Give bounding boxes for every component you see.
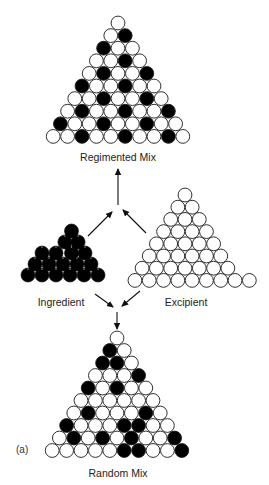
excipient-particle: [128, 274, 142, 288]
excipient-particle: [124, 381, 138, 395]
excipient-particle: [96, 381, 110, 395]
excipient-particle: [46, 130, 60, 144]
ingredient-particle: [21, 268, 35, 282]
excipient-particle: [171, 200, 185, 214]
ingredient-particle: [132, 419, 146, 433]
ingredient-particle: [118, 79, 132, 93]
excipient-particle: [139, 381, 153, 395]
arrow-ingredient-to-random: [95, 294, 113, 307]
ingredient-particle: [67, 431, 81, 445]
excipient-particle: [74, 394, 88, 408]
excipient-particle: [124, 406, 138, 420]
excipient-particle: [153, 431, 167, 445]
excipient-particle: [60, 444, 74, 458]
gap-dot: [69, 268, 70, 269]
excipient-particle: [142, 249, 156, 263]
excipient-particle: [157, 225, 171, 239]
excipient-particle: [68, 117, 82, 131]
excipient-particle: [185, 274, 199, 288]
gap-dot: [62, 257, 63, 258]
ingredient-particle: [110, 356, 124, 370]
gap-dot: [76, 257, 77, 258]
gap-dot: [90, 257, 91, 258]
gap-dot: [41, 268, 42, 269]
excipient-particle: [82, 92, 96, 106]
excipient-particle: [110, 431, 124, 445]
gap-dot: [64, 235, 65, 236]
excipient-particle: [169, 117, 183, 131]
excipient-particle: [178, 213, 192, 227]
ingredient-particle: [118, 130, 132, 144]
excipient-particle: [185, 249, 199, 263]
ingredient-particle: [96, 356, 110, 370]
excipient-particle: [74, 444, 88, 458]
excipient-particle: [192, 213, 206, 227]
excipient-particle: [90, 79, 104, 93]
arrows: [88, 169, 146, 329]
excipient-particle: [90, 130, 104, 144]
gap-dot: [41, 246, 42, 247]
excipient-particle: [242, 274, 256, 288]
arrow-excipient-to-random: [122, 291, 140, 306]
gap-dot: [27, 268, 28, 269]
regimented-mix-label: Regimented Mix: [80, 152, 156, 163]
excipient-particle: [133, 130, 147, 144]
excipient-particle: [154, 92, 168, 106]
ingredient-particle: [75, 79, 89, 93]
excipient-particle: [139, 431, 153, 445]
ingredient-particle: [124, 431, 138, 445]
excipient-particle: [147, 104, 161, 118]
random-mix-label: Random Mix: [89, 468, 148, 479]
ingredient-particle: [168, 431, 182, 445]
excipient-particle: [192, 261, 206, 275]
excipient-particle: [89, 369, 103, 383]
ingredient-particle: [81, 406, 95, 420]
excipient-particle: [200, 225, 214, 239]
excipient-particle: [171, 274, 185, 288]
ingredient-particle: [139, 406, 153, 420]
excipient-particle: [74, 419, 88, 433]
excipient-particle: [104, 79, 118, 93]
excipient-particle: [135, 261, 149, 275]
excipient-particle: [81, 431, 95, 445]
excipient-particle: [147, 130, 161, 144]
excipient-particle: [103, 444, 117, 458]
excipient-particle: [103, 369, 117, 383]
gap-dot: [48, 257, 49, 258]
ingredient-particle: [118, 104, 132, 118]
excipient-particle: [104, 54, 118, 68]
excipient-particle: [150, 261, 164, 275]
ingredient-particle: [35, 268, 49, 282]
excipient-particle: [125, 67, 139, 81]
ingredient-label: Ingredient: [38, 297, 85, 308]
excipient-particle: [214, 249, 228, 263]
excipient-particle: [82, 67, 96, 81]
excipient-particle: [161, 444, 175, 458]
ingredient-particle: [140, 67, 154, 81]
ingredient-particle: [63, 268, 77, 282]
random-mix-triangle: [45, 331, 188, 457]
excipient-particle: [111, 117, 125, 131]
excipient-particle: [45, 444, 59, 458]
excipient-particle: [117, 369, 131, 383]
ingredient-particle: [97, 117, 111, 131]
ingredient-particle: [162, 104, 176, 118]
mixing-diagram: Regimented Mix Ingredient Excipient Rand…: [0, 0, 269, 485]
excipient-particle: [176, 130, 190, 144]
gap-dot: [78, 235, 79, 236]
excipient-particle: [111, 16, 125, 30]
excipient-particle: [146, 394, 160, 408]
ingredient-particle: [175, 444, 189, 458]
panel-label: (a): [16, 445, 28, 455]
excipient-particle: [154, 117, 168, 131]
excipient-particle: [214, 274, 228, 288]
excipient-particle: [207, 237, 221, 251]
ingredient-particle: [96, 431, 110, 445]
gap-dot: [34, 257, 35, 258]
excipient-label: Excipient: [165, 297, 208, 308]
excipient-particle: [90, 54, 104, 68]
excipient-particle: [111, 41, 125, 55]
excipient-particle: [178, 261, 192, 275]
ingredient-particle: [75, 130, 89, 144]
ingredient-particle: [118, 29, 132, 43]
